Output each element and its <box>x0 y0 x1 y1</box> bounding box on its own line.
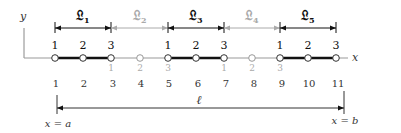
right-bound-label: x = b <box>332 115 359 126</box>
local-node: 1 <box>221 63 227 73</box>
local-node: 3 <box>165 63 171 73</box>
node <box>277 55 284 62</box>
element-label-2: 𝔏2 <box>132 8 147 25</box>
local-node: 1 <box>277 39 284 52</box>
local-node: 2 <box>80 39 87 52</box>
node <box>80 55 87 62</box>
global-node: 11 <box>332 78 345 89</box>
x-axis-label: x <box>352 51 359 64</box>
element-label-5: 𝔏5 <box>300 8 315 25</box>
element-arrows <box>55 22 336 33</box>
local-node: 2 <box>305 39 312 52</box>
node <box>221 55 228 62</box>
global-node: 1 <box>53 78 59 89</box>
local-node: 1 <box>165 39 172 52</box>
global-node: 2 <box>81 78 87 89</box>
element-label-1: 𝔏1 <box>75 8 90 25</box>
left-bound-label: x = a <box>45 118 71 129</box>
node <box>52 55 59 62</box>
local-node: 3 <box>221 39 228 52</box>
global-node: 6 <box>195 78 201 89</box>
local-node: 1 <box>108 63 114 73</box>
finite-element-diagram: y x <box>0 0 401 133</box>
local-node: 2 <box>249 63 255 73</box>
node <box>108 55 115 62</box>
global-node: 10 <box>303 78 316 89</box>
node <box>165 55 172 62</box>
local-node: 3 <box>277 63 283 73</box>
node <box>249 55 256 62</box>
local-node: 2 <box>193 39 200 52</box>
local-node: 3 <box>108 39 115 52</box>
node <box>137 55 144 62</box>
y-axis-label: y <box>19 10 27 23</box>
element-label-3: 𝔏3 <box>188 8 203 25</box>
length-label: ℓ <box>197 93 202 107</box>
global-node: 3 <box>110 78 116 89</box>
global-node: 9 <box>279 78 285 89</box>
local-node: 1 <box>52 39 59 52</box>
global-node: 5 <box>166 78 172 89</box>
node <box>333 55 340 62</box>
node <box>305 55 312 62</box>
global-node: 8 <box>251 78 257 89</box>
element-label-4: 𝔏4 <box>244 8 259 25</box>
local-node: 3 <box>333 39 340 52</box>
local-node: 2 <box>137 63 143 73</box>
global-node: 4 <box>138 78 144 89</box>
global-node: 7 <box>223 78 229 89</box>
node <box>193 55 200 62</box>
